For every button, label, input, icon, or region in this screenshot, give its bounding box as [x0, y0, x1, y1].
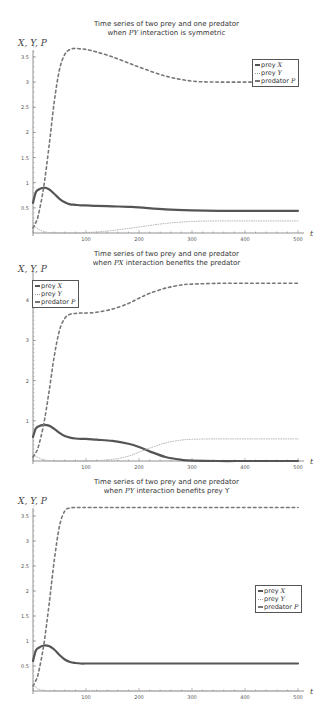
- y-tick-label: 0.5: [21, 205, 29, 211]
- legend-item-prey-y: prey Y: [255, 69, 295, 77]
- legend: prey X prey Y predator P: [252, 59, 299, 87]
- y-tick-label: 2.5: [21, 563, 29, 569]
- x-tick-label: 500: [293, 694, 303, 700]
- y-tick-label: 4: [26, 297, 29, 303]
- legend-item-prey-y: prey Y: [35, 290, 75, 298]
- y-tick-label: 1.5: [21, 613, 29, 619]
- y-tick-label: 1.5: [21, 155, 29, 161]
- title-line-2: when PY interaction benefits prey Y: [0, 487, 333, 496]
- title-line-1: Time series of two prey and one predator: [0, 250, 333, 259]
- title-line-2: when PX interaction benefits the predato…: [0, 259, 333, 268]
- series-prey-y: [33, 685, 298, 691]
- line-plot: 100200300400500t0.511.522.533.5: [0, 0, 333, 245]
- x-tick-label: 200: [134, 694, 144, 700]
- y-tick-label: 3: [26, 79, 29, 85]
- x-tick-label: 100: [81, 236, 91, 242]
- title-line-1: Time series of two prey and one predator: [0, 478, 333, 487]
- legend-item-prey-y: prey Y: [258, 595, 298, 603]
- legend-item-predator: predator P: [35, 298, 75, 306]
- y-tick-label: 2: [26, 378, 29, 384]
- y-tick-label: 2.5: [21, 104, 29, 110]
- legend-item-prey-x: prey X: [258, 587, 298, 595]
- series-predator-p: [33, 507, 298, 686]
- x-tick-label: 200: [134, 236, 144, 242]
- y-tick-label: 0.5: [21, 663, 29, 669]
- chart-panel-symmetric: Time series of two prey and one predator…: [0, 0, 333, 245]
- y-axis-label: X, Y, P: [18, 496, 47, 506]
- y-tick-label: 3: [26, 538, 29, 544]
- legend: prey X prey Y predator P: [32, 280, 79, 308]
- y-tick-label: 1: [26, 638, 29, 644]
- x-tick-label: 400: [240, 236, 250, 242]
- series-prey-y: [33, 439, 298, 461]
- y-tick-label: 2: [26, 588, 29, 594]
- legend-item-prey-x: prey X: [255, 61, 295, 69]
- series-prey-x: [33, 425, 298, 461]
- x-tick-label: 200: [134, 464, 144, 470]
- y-tick-label: 3.5: [21, 513, 29, 519]
- y-tick-label: 3: [26, 337, 29, 343]
- x-axis-label: t: [310, 687, 314, 696]
- x-tick-label: 400: [240, 464, 250, 470]
- legend-item-predator: predator P: [258, 603, 298, 611]
- x-tick-label: 300: [187, 694, 197, 700]
- y-tick-label: 2: [26, 129, 29, 135]
- x-axis-label: t: [310, 229, 314, 238]
- legend-item-prey-x: prey X: [35, 282, 75, 290]
- x-tick-label: 500: [293, 464, 303, 470]
- x-tick-label: 100: [81, 694, 91, 700]
- chart-title: Time series of two prey and one predator…: [0, 478, 333, 496]
- x-tick-label: 300: [187, 236, 197, 242]
- series-predator-p: [33, 283, 298, 457]
- x-axis-label: t: [310, 457, 314, 466]
- y-tick-label: 1: [26, 180, 29, 186]
- series-prey-y: [33, 221, 298, 233]
- chart-title: Time series of two prey and one predator…: [0, 250, 333, 268]
- series-prey-x: [33, 188, 298, 211]
- x-tick-label: 400: [240, 694, 250, 700]
- y-tick-label: 3.5: [21, 54, 29, 60]
- x-tick-label: 300: [187, 464, 197, 470]
- y-axis-label: X, Y, P: [18, 264, 47, 274]
- legend-item-predator: predator P: [255, 77, 295, 85]
- y-tick-label: 1: [26, 418, 29, 424]
- series-prey-x: [33, 645, 298, 663]
- legend: prey X prey Y predator P: [255, 585, 302, 613]
- x-tick-label: 100: [81, 464, 91, 470]
- x-tick-label: 500: [293, 236, 303, 242]
